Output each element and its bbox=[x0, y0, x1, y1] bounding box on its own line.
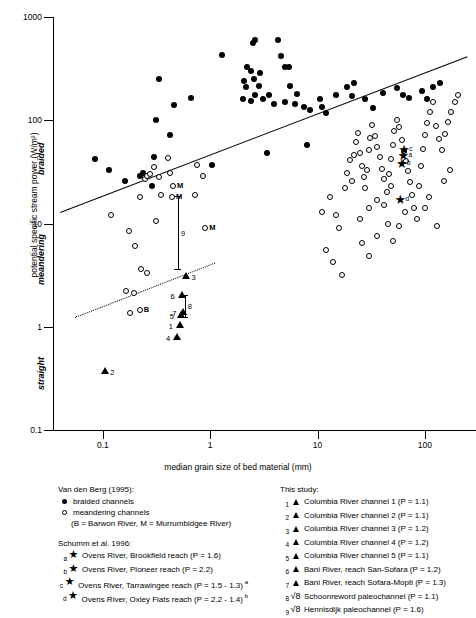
data-point-open-circle bbox=[153, 218, 159, 224]
data-point-open-circle bbox=[427, 109, 433, 115]
data-point-open-circle bbox=[452, 99, 458, 105]
data-point-filled-circle bbox=[156, 76, 162, 82]
data-point-triangle-7 bbox=[179, 308, 187, 315]
y-tick-10 bbox=[44, 224, 53, 225]
y-tick-1 bbox=[44, 327, 53, 328]
point-label-3: 3 bbox=[191, 274, 195, 281]
error-bar-label-9: 9 bbox=[181, 230, 185, 237]
data-point-open-circle bbox=[366, 147, 372, 153]
legend-schumm-index: a bbox=[58, 550, 67, 564]
data-point-filled-circle bbox=[252, 92, 258, 98]
data-point-open-circle bbox=[165, 155, 171, 161]
data-point-open-circle bbox=[445, 119, 451, 125]
data-point-open-circle bbox=[388, 156, 394, 162]
data-point-open-circle bbox=[402, 209, 408, 215]
data-point-open-circle bbox=[336, 225, 342, 231]
point-label-M: M bbox=[209, 224, 215, 231]
data-point-filled-circle bbox=[149, 183, 155, 189]
data-point-open-circle bbox=[424, 120, 430, 126]
data-point-filled-circle bbox=[430, 84, 436, 90]
legend-schumm-label: Ovens River, Brookfield reach (P = 1.6) bbox=[80, 550, 221, 561]
data-point-filled-circle bbox=[260, 96, 266, 102]
data-point-open-circle bbox=[409, 192, 415, 198]
data-point-filled-circle bbox=[153, 117, 159, 123]
data-point-open-circle bbox=[200, 173, 206, 179]
data-point-filled-circle bbox=[380, 90, 386, 96]
data-point-filled-circle bbox=[424, 96, 430, 102]
data-point-open-circle bbox=[442, 131, 448, 137]
data-point-triangle-4 bbox=[173, 333, 181, 340]
legend-schumm-row: b★Ovens River, Pioneer reach (P = 2.2) bbox=[58, 564, 248, 578]
legend-this-study-label: Columbia River channel 5 (P = 1.1) bbox=[302, 550, 429, 561]
error-bar-cap-8-low bbox=[181, 317, 188, 318]
data-point-filled-circle bbox=[323, 110, 329, 116]
data-point-filled-circle bbox=[252, 37, 258, 43]
legend-marker-filled-circle-icon bbox=[58, 496, 71, 507]
legend-column-right: This study: 1Columbia River channel 1 (P… bbox=[280, 484, 476, 618]
braided-meandering-threshold bbox=[60, 56, 468, 213]
y-tick-100 bbox=[44, 120, 53, 121]
legend-this-study-row: 1Columbia River channel 1 (P = 1.1) bbox=[280, 496, 476, 510]
data-point-open-circle bbox=[156, 174, 162, 180]
data-point-filled-circle bbox=[248, 68, 254, 74]
legend-column-left: Van den Berg (1995): braided channelsmea… bbox=[58, 484, 248, 604]
data-point-open-circle bbox=[430, 99, 436, 105]
legend-rows-vandenberg: braided channelsmeandering channels bbox=[58, 496, 248, 518]
legend-marker-open-circle-icon bbox=[58, 507, 71, 518]
legend-this-study-row: 5Columbia River channel 5 (P = 1.1) bbox=[280, 550, 476, 564]
legend-this-study-row: 3Columbia River channel 3 (P = 1.2) bbox=[280, 523, 476, 537]
error-bar-cap-9-high bbox=[174, 196, 181, 197]
legend-heading-schumm: Schumm et al. 1996: bbox=[58, 538, 248, 549]
data-point-open-circle bbox=[436, 136, 442, 142]
stream-power-scatter-chart: 10001001010.1 0.1110100 1234567MMMB★a★b★… bbox=[0, 0, 476, 440]
data-point-open-circle bbox=[377, 154, 383, 160]
data-point-open-circle bbox=[422, 205, 428, 211]
data-point-filled-circle bbox=[307, 107, 313, 113]
data-point-open-circle bbox=[167, 170, 173, 176]
legend-this-study-index: 3 bbox=[280, 523, 289, 537]
data-point-open-circle bbox=[379, 166, 385, 172]
data-point-filled-circle bbox=[240, 96, 246, 102]
legend-schumm-footnote-marker: a bbox=[243, 579, 248, 585]
x-tick-label-1: 1 bbox=[190, 441, 230, 450]
data-point-filled-circle bbox=[351, 80, 357, 86]
data-point-filled-circle bbox=[92, 156, 98, 162]
data-point-open-circle bbox=[422, 132, 428, 138]
legend-this-study-label: Columbia River channel 3 (P = 1.2) bbox=[302, 523, 429, 534]
data-point-open-circle bbox=[349, 178, 355, 184]
error-bar-9 bbox=[178, 196, 179, 269]
data-point-open-circle bbox=[433, 123, 439, 129]
data-point-open-circle bbox=[355, 130, 361, 136]
data-point-filled-circle bbox=[362, 96, 368, 102]
point-label-6: 6 bbox=[171, 293, 175, 300]
data-point-open-circle bbox=[323, 247, 329, 253]
legend-this-study-label: Bani River, reach San-Sofara (P = 1.2) bbox=[302, 564, 441, 575]
point-label-B: B bbox=[144, 306, 149, 313]
legend-marker-star-icon: ★ bbox=[67, 550, 80, 561]
data-point-open-circle bbox=[384, 189, 390, 195]
data-point-open-circle bbox=[361, 174, 367, 180]
data-point-open-circle bbox=[353, 139, 359, 145]
legend-marker-star-icon: ★ bbox=[67, 564, 80, 575]
data-point-open-circle bbox=[319, 209, 325, 215]
legend-marker-ibar-icon: √8 bbox=[289, 604, 302, 615]
data-point-filled-circle bbox=[292, 101, 298, 107]
data-point-filled-circle bbox=[248, 98, 254, 104]
legend-marker-triangle-icon bbox=[289, 577, 302, 588]
data-point-open-circle bbox=[426, 194, 432, 200]
point-label-2: 2 bbox=[110, 369, 114, 376]
data-point-open-circle bbox=[386, 171, 392, 177]
data-point-filled-circle bbox=[106, 167, 112, 173]
data-point-open-circle bbox=[339, 272, 345, 278]
data-point-open-circle bbox=[416, 183, 422, 189]
data-point-filled-circle bbox=[209, 162, 215, 168]
x-axis-title: median grain size of bed material (mm) bbox=[0, 462, 476, 472]
legend-marker-triangle-icon bbox=[289, 496, 302, 507]
point-label-d: d bbox=[405, 196, 409, 202]
data-point-star-d: ★ bbox=[394, 196, 406, 203]
data-point-open-circle bbox=[123, 288, 129, 294]
data-point-open-circle bbox=[362, 185, 368, 191]
data-point-open-circle-M bbox=[170, 183, 176, 189]
legend-this-study-label: Hennisdijk paleochannel (P = 1.6) bbox=[302, 604, 424, 615]
data-point-filled-circle bbox=[400, 92, 406, 98]
